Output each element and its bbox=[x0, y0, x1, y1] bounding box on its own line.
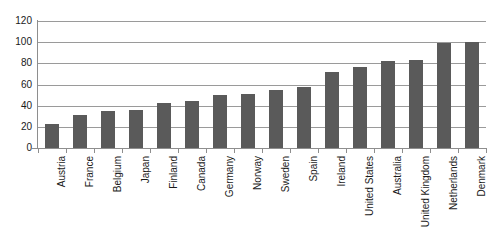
y-axis-tick-label: 80 bbox=[6, 58, 32, 68]
x-axis-tick-label: Sweden bbox=[280, 156, 291, 192]
x-axis-tick-label: Finland bbox=[168, 156, 179, 189]
gridline bbox=[38, 21, 486, 22]
bar bbox=[213, 95, 227, 148]
x-axis-tick-label: Japan bbox=[140, 156, 151, 183]
bar bbox=[73, 115, 87, 148]
x-axis-tick-label: United States bbox=[364, 156, 375, 216]
x-axis-tick bbox=[66, 149, 67, 153]
x-axis-tick bbox=[346, 149, 347, 153]
bar bbox=[465, 42, 479, 148]
x-axis-tick bbox=[290, 149, 291, 153]
x-axis-tick bbox=[122, 149, 123, 153]
bar bbox=[101, 111, 115, 148]
x-axis-tick bbox=[178, 149, 179, 153]
x-axis-tick bbox=[318, 149, 319, 153]
x-axis-tick-label: Canada bbox=[196, 156, 207, 191]
bar bbox=[185, 101, 199, 148]
x-axis-tick bbox=[206, 149, 207, 153]
x-axis-tick bbox=[486, 149, 487, 153]
x-axis-tick-label: Netherlands bbox=[448, 156, 459, 210]
y-axis-tick-label: 20 bbox=[6, 122, 32, 132]
x-axis-tick bbox=[234, 149, 235, 153]
y-axis-tick-label: 120 bbox=[6, 16, 32, 26]
gridline bbox=[38, 42, 486, 43]
x-axis-tick bbox=[94, 149, 95, 153]
bar bbox=[437, 43, 451, 148]
x-axis-tick bbox=[262, 149, 263, 153]
bar bbox=[157, 103, 171, 149]
x-axis-tick bbox=[430, 149, 431, 153]
x-axis-tick-label: Spain bbox=[308, 156, 319, 182]
y-axis-tick-label: 100 bbox=[6, 37, 32, 47]
bar-chart: 120100806040200 AustriaFranceBelgiumJapa… bbox=[0, 0, 492, 247]
bar bbox=[241, 94, 255, 148]
bar bbox=[297, 87, 311, 148]
x-axis-tick-label: Austria bbox=[56, 156, 67, 187]
x-axis-tick-label: Denmark bbox=[476, 156, 487, 197]
bar bbox=[325, 72, 339, 148]
x-axis-tick bbox=[402, 149, 403, 153]
x-axis-tick-label: Norway bbox=[252, 156, 263, 190]
y-axis-tick-label: 60 bbox=[6, 80, 32, 90]
x-axis-tick-label: France bbox=[84, 156, 95, 187]
bar bbox=[381, 61, 395, 148]
x-axis-tick-label: Germany bbox=[224, 156, 235, 197]
y-axis-tick-label: 0 bbox=[6, 143, 32, 153]
y-axis-tick-label: 40 bbox=[6, 101, 32, 111]
x-axis-tick-label: Ireland bbox=[336, 156, 347, 187]
y-axis-tick-labels: 120100806040200 bbox=[0, 0, 32, 247]
plot-area bbox=[38, 21, 486, 148]
x-axis-tick bbox=[458, 149, 459, 153]
x-axis-tick bbox=[38, 149, 39, 153]
x-axis-tick-label: Belgium bbox=[112, 156, 123, 192]
bar bbox=[45, 124, 59, 148]
bar bbox=[269, 90, 283, 148]
x-axis-tick-label: Australia bbox=[392, 156, 403, 195]
bar bbox=[409, 60, 423, 148]
x-axis-tick bbox=[150, 149, 151, 153]
bar bbox=[129, 110, 143, 148]
bar bbox=[353, 67, 367, 148]
x-axis-tick-label: United Kingdom bbox=[420, 156, 431, 227]
x-axis-tick bbox=[374, 149, 375, 153]
x-axis-line bbox=[32, 148, 487, 149]
